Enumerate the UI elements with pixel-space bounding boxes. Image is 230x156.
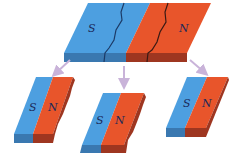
north-pole-label: N [178, 22, 189, 35]
piece-3-south-side [166, 128, 185, 137]
piece-2-south-side [80, 145, 101, 153]
piece-1-north-label: N [47, 101, 58, 114]
magnet-piece-2: S N [80, 93, 146, 153]
arrow-right-icon [190, 60, 204, 72]
north-half-side [126, 53, 187, 62]
piece-1-south-side [14, 134, 33, 143]
piece-3-north-side [185, 128, 206, 137]
magnet-piece-3: S N [166, 77, 229, 137]
piece-2-south-label: S [96, 114, 104, 127]
piece-1-south-label: S [29, 101, 37, 114]
original-magnet: S N [64, 3, 211, 62]
piece-3-north-label: N [201, 97, 212, 110]
magnet-piece-1: S N [14, 77, 75, 143]
piece-3-south-label: S [183, 97, 191, 110]
broken-magnet-diagram: S N S N S N S N [0, 0, 230, 156]
piece-2-north-side [101, 145, 124, 153]
piece-2-north-label: N [114, 114, 125, 127]
south-pole-label: S [88, 22, 96, 35]
arrow-left-icon [56, 60, 70, 73]
south-half-side [64, 53, 126, 62]
piece-1-north-side [33, 134, 53, 143]
